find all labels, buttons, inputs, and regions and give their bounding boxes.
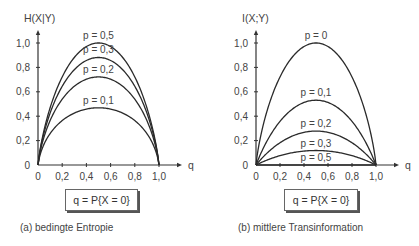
curve-label: p = 0,1 — [83, 95, 114, 106]
x-tick-label: 1,0 — [369, 171, 383, 182]
x-definition-box-b: q = P{X = 0} — [284, 189, 358, 211]
x-definition-box-a: q = P{X = 0} — [65, 189, 138, 211]
y-tick-label: 0,2 — [234, 135, 248, 146]
curve-label: p = 0,1 — [301, 87, 332, 98]
x-tick-label: 0,4 — [297, 171, 311, 182]
x-tick-label: 1,0 — [152, 171, 166, 182]
x-tick-label: 0,6 — [321, 171, 335, 182]
x-definition-label-b: q = P{X = 0} — [293, 194, 350, 206]
x-definition-label-a: q = P{X = 0} — [73, 194, 130, 206]
y-tick-label: 0,4 — [16, 111, 30, 122]
x-tick-label: 0,4 — [79, 171, 93, 182]
x-tick-label: 0,2 — [273, 171, 287, 182]
curve-label: p = 0,5 — [301, 152, 332, 163]
x-tick-label: 0 — [35, 171, 41, 182]
curve-label: p = 0,3 — [83, 44, 114, 55]
y-tick-label: 0,6 — [234, 86, 248, 97]
x-axis-label: q — [405, 159, 411, 171]
curve-label: p = 0,2 — [301, 118, 332, 129]
x-axis-arrow-icon — [177, 163, 182, 167]
y-tick-label: 0,4 — [234, 111, 248, 122]
x-tick-label: 0,2 — [55, 171, 69, 182]
y-tick-label: 0 — [24, 160, 30, 171]
y-axis-label: I(X;Y) — [242, 12, 269, 24]
y-axis-label: H(X|Y) — [24, 12, 55, 24]
y-tick-label: 0,8 — [234, 62, 248, 73]
curve-label: p = 0,3 — [301, 138, 332, 149]
curve-01 — [38, 108, 159, 165]
y-axis-arrow-icon — [254, 30, 258, 35]
y-tick-label: 0,6 — [16, 86, 30, 97]
y-axis-arrow-icon — [36, 30, 40, 35]
x-tick-label: 0,8 — [128, 171, 142, 182]
x-tick-label: 0 — [253, 171, 259, 182]
x-tick-label: 0,6 — [104, 171, 118, 182]
y-tick-label: 0 — [242, 160, 248, 171]
y-tick-label: 0,2 — [16, 135, 30, 146]
y-tick-label: 0,8 — [16, 62, 30, 73]
y-tick-label: 1,0 — [16, 38, 30, 49]
curve-label: p = 0,2 — [83, 64, 114, 75]
x-axis-arrow-icon — [394, 163, 399, 167]
curve-label: p = 0,5 — [83, 30, 114, 41]
curve-label: p = 0 — [305, 30, 328, 41]
x-axis-label: q — [188, 159, 194, 171]
caption-a: (a) bedingte Entropie — [20, 222, 113, 233]
x-tick-label: 0,8 — [345, 171, 359, 182]
panel-b-mutual-information: I(X;Y)q00,20,40,60,81,000,20,40,60,81,0p… — [234, 12, 411, 182]
panel-a-conditional-entropy: H(X|Y)q00,20,40,60,81,000,20,40,60,81,0p… — [16, 12, 194, 182]
caption-b: (b) mittlere Transinformation — [238, 222, 363, 233]
y-tick-label: 1,0 — [234, 38, 248, 49]
